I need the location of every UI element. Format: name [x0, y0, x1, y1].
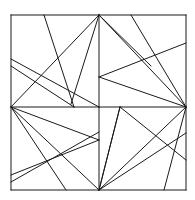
seg-br-rightmid-to-bottomedge [164, 107, 186, 190]
line-art-figure [0, 0, 195, 200]
seg-br-peak-to-rightedge [120, 107, 186, 160]
seg-tl-leftedge-to-midv [11, 59, 99, 107]
seg-bl-hub-to-bottomcenter [11, 107, 99, 190]
segment-group [11, 15, 186, 190]
line-segment-canvas [0, 0, 195, 200]
seg-tr-hub-to-bottomright [99, 15, 186, 107]
seg-bl-leftedge-diag [11, 132, 99, 182]
seg-br-bottomcenter-to-rightedge [99, 133, 186, 190]
seg-tr-centerv-to-rightmid [99, 77, 186, 107]
seg-tl-left-to-hubtop [11, 66, 74, 107]
seg-bl-hub-to-centerv [11, 107, 99, 140]
seg-tl-hub-to-lowleft [71, 15, 99, 104]
seg-tl-hub-to-leftmid [11, 15, 99, 107]
seg-br-bottomcenter-to-peak [99, 107, 120, 190]
seg-tl-diag-down [44, 15, 74, 107]
seg-tr-rightedge-to-centerv [99, 43, 186, 77]
seg-br-rightmid-to-bottomcenter [99, 107, 186, 190]
